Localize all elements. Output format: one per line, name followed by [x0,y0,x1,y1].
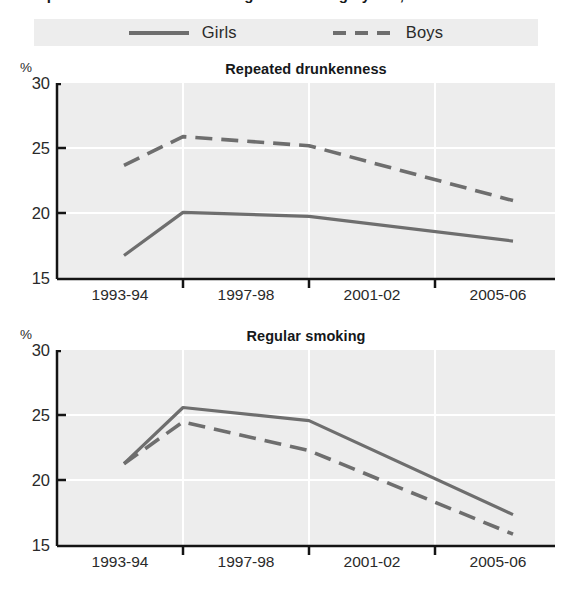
x-tick-label: 2005-06 [438,286,558,304]
legend-entry-girls: Girls [129,23,237,42]
plot-svg [0,83,570,315]
legend-label-girls: Girls [202,23,237,42]
y-axis-unit: % [20,327,32,342]
y-axis-unit: % [20,60,32,75]
x-tick-label: 1993-94 [60,286,180,304]
chart-title: Repeated drunkenness [57,61,555,77]
plot-area: 30 25 20 15 1993-94 1997-98 2001-02 200 [0,350,570,582]
chart-legend: Girls Boys [34,19,538,46]
x-tick-label: 2005-06 [438,553,558,571]
chart-title: Regular smoking [57,328,555,344]
legend-line-solid-icon [129,31,189,35]
plot-area: 30 25 20 15 1993-94 1997-98 2001-02 200 [0,83,570,315]
plot-svg [0,350,570,582]
legend-line-dashed-icon [333,31,393,35]
legend-entry-boys: Boys [333,23,443,42]
x-tick-label: 1997-98 [186,286,306,304]
x-tick-label: 1997-98 [186,553,306,571]
plot-background [57,350,555,546]
x-tick-label: 1993-94 [60,553,180,571]
x-tick-label: 2001-02 [312,286,432,304]
x-tick-label: 2001-02 [312,553,432,571]
page-heading: Repeated drunkenness and regular smoking… [0,0,570,4]
legend-label-boys: Boys [406,23,443,42]
